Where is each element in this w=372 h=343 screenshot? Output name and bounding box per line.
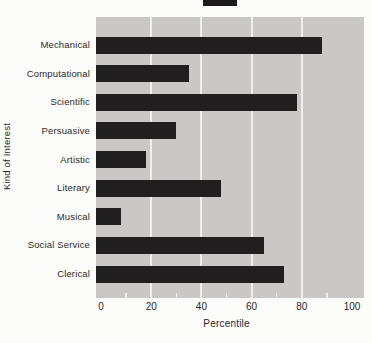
bar-persuasive	[96, 122, 176, 139]
minor-tick-60	[251, 293, 253, 298]
bar-mechanical	[96, 37, 322, 54]
category-label-artistic: Artistic	[0, 154, 90, 165]
category-label-clerical: Clerical	[0, 268, 90, 279]
category-label-persuasive: Persuasive	[0, 125, 90, 136]
category-label-literary: Literary	[0, 182, 90, 193]
category-label-social-service: Social Service	[0, 239, 90, 250]
bar-social-service	[96, 237, 264, 254]
minor-tick-70	[276, 293, 278, 298]
minor-tick-10	[125, 293, 127, 298]
bar-artistic	[96, 151, 146, 168]
gridline-40	[200, 17, 202, 298]
x-tick-label-60: 60	[237, 301, 267, 312]
minor-tick-90	[326, 293, 328, 298]
cropped-artifact-bar	[203, 0, 237, 6]
bar-literary	[96, 180, 221, 197]
x-tick-label-20: 20	[136, 301, 166, 312]
minor-tick-40	[201, 293, 203, 298]
x-tick-label-0: 0	[86, 301, 116, 312]
bar-musical	[96, 208, 121, 225]
category-label-scientific: Scientific	[0, 96, 90, 107]
x-tick-label-80: 80	[287, 301, 317, 312]
gridline-20	[150, 17, 152, 298]
bar-clerical	[96, 266, 284, 283]
minor-tick-20	[150, 293, 152, 298]
x-tick-label-40: 40	[186, 301, 216, 312]
bar-computational	[96, 65, 189, 82]
category-label-musical: Musical	[0, 211, 90, 222]
figure-canvas: Kind of Interest MechanicalComputational…	[0, 0, 372, 343]
gridline-80	[301, 17, 303, 298]
minor-tick-30	[176, 293, 178, 298]
minor-tick-50	[226, 293, 228, 298]
gridline-60	[251, 17, 253, 298]
bar-scientific	[96, 94, 297, 111]
x-axis-tick-labels: 020406080100	[96, 301, 364, 313]
category-label-computational: Computational	[0, 68, 90, 79]
minor-tick-80	[301, 293, 303, 298]
category-axis-labels: MechanicalComputationalScientificPersuas…	[0, 0, 93, 343]
x-axis-title: Percentile	[96, 318, 357, 329]
plot-area	[96, 17, 364, 298]
x-tick-label-100: 100	[337, 301, 367, 312]
category-label-mechanical: Mechanical	[0, 39, 90, 50]
